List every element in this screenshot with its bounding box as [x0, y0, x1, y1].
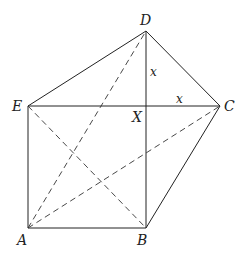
length-label-DX: x	[150, 65, 157, 79]
label-E: E	[11, 98, 22, 114]
dashed-segment-AC	[28, 106, 220, 228]
segment-BC	[146, 106, 220, 228]
dashed-segment-EB	[28, 106, 146, 228]
geometry-diagram: D E C X A B x x	[0, 0, 247, 257]
label-X: X	[131, 109, 143, 125]
dashed-segment-AD	[28, 31, 146, 228]
label-A: A	[15, 232, 27, 248]
label-C: C	[224, 98, 235, 114]
segment-DE	[28, 31, 146, 106]
length-label-XC: x	[176, 92, 183, 106]
segment-CD	[146, 31, 220, 106]
label-B: B	[136, 232, 147, 248]
label-D: D	[139, 12, 151, 28]
